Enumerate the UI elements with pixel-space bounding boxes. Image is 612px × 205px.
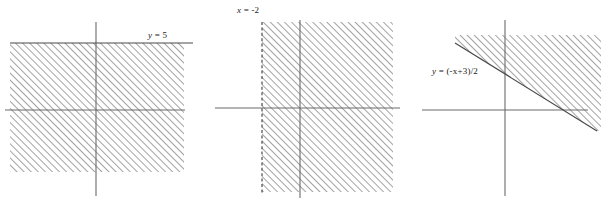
panel-2-svg: [204, 0, 410, 205]
equation-label-rest: = (-x+3)/2: [436, 66, 478, 76]
equation-label-x-equals-minus-2: x = -2: [237, 5, 259, 15]
equation-label-y-equals-5: y = 5: [148, 30, 167, 40]
equation-label-y-equals-linear: y = (-x+3)/2: [432, 66, 478, 76]
panel-3-svg: [410, 0, 612, 205]
panel-horizontal-boundary: y = 5: [0, 0, 204, 205]
shaded-region: [262, 22, 393, 192]
equation-label-rest: = -2: [241, 5, 259, 15]
shaded-region: [10, 43, 184, 172]
panel-vertical-boundary: x = -2: [204, 0, 410, 205]
equation-label-rest: = 5: [152, 30, 167, 40]
panel-1-svg: [0, 0, 204, 205]
shaded-region: [455, 35, 601, 131]
panel-diagonal-boundary: y = (-x+3)/2: [410, 0, 612, 205]
inequality-graphs-figure: y = 5 x = -2: [0, 0, 612, 205]
